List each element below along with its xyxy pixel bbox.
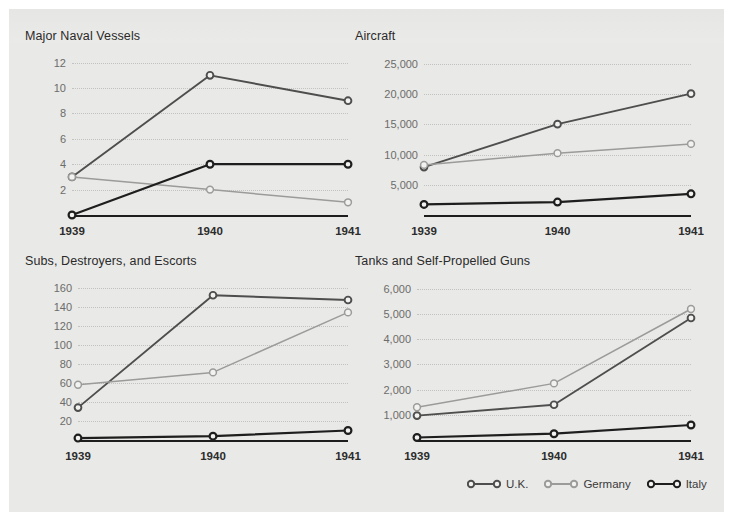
data-point-marker-italy[interactable]	[554, 199, 561, 206]
series-layer	[78, 280, 348, 444]
series-line-uk	[78, 295, 348, 407]
data-point-marker-germany[interactable]	[345, 309, 352, 316]
legend-label: Italy	[686, 478, 707, 490]
data-point-marker-italy[interactable]	[688, 190, 695, 197]
data-point-marker-italy[interactable]	[69, 212, 76, 219]
legend-label: U.K.	[506, 478, 528, 490]
data-point-marker-uk[interactable]	[688, 90, 695, 97]
data-point-marker-uk[interactable]	[414, 412, 421, 419]
x-axis-tick-label: 1940	[200, 450, 226, 462]
y-axis-tick-label: 20	[60, 415, 72, 427]
y-axis-tick-label: 3,000	[383, 358, 411, 370]
x-axis-tick-label: 1940	[545, 225, 571, 237]
plot-area: 5,00010,00015,00020,00025,00019391940194…	[424, 55, 691, 215]
legend: U.K.GermanyItaly	[467, 478, 707, 490]
y-axis-tick-label: 25,000	[384, 58, 418, 70]
series-layer	[424, 55, 691, 219]
data-point-marker-italy[interactable]	[688, 422, 695, 429]
x-axis-tick-label: 1939	[59, 225, 85, 237]
plot-area: 1,0002,0003,0004,0005,0006,0001939194019…	[417, 280, 691, 440]
x-axis-tick-label: 1940	[541, 450, 567, 462]
y-axis-tick-label: 12	[54, 57, 66, 69]
data-point-marker-uk[interactable]	[345, 297, 352, 304]
data-point-marker-germany[interactable]	[69, 174, 76, 181]
data-point-marker-italy[interactable]	[345, 427, 352, 434]
legend-swatch-icon	[647, 478, 681, 490]
y-axis-tick-label: 10,000	[384, 149, 418, 161]
y-axis-tick-label: 8	[60, 107, 66, 119]
y-axis-tick-label: 4,000	[383, 333, 411, 345]
x-axis-tick-label: 1939	[65, 450, 91, 462]
y-axis-tick-label: 5,000	[390, 179, 418, 191]
legend-item[interactable]: Germany	[544, 478, 630, 490]
series-layer	[72, 55, 348, 219]
x-axis-tick-label: 1939	[411, 225, 437, 237]
series-layer	[417, 280, 691, 444]
y-axis-tick-label: 1,000	[383, 409, 411, 421]
data-point-marker-germany[interactable]	[688, 306, 695, 313]
data-point-marker-uk[interactable]	[207, 72, 214, 79]
y-axis-tick-label: 5,000	[383, 308, 411, 320]
data-point-marker-italy[interactable]	[345, 161, 352, 168]
data-point-marker-germany[interactable]	[554, 150, 561, 157]
x-axis-tick-label: 1939	[404, 450, 430, 462]
y-axis-tick-label: 2	[60, 184, 66, 196]
data-point-marker-italy[interactable]	[207, 161, 214, 168]
series-line-germany	[417, 309, 691, 407]
data-point-marker-germany[interactable]	[207, 186, 214, 193]
y-axis-tick-label: 160	[54, 282, 72, 294]
x-axis-tick-label: 1941	[678, 225, 704, 237]
data-point-marker-uk[interactable]	[551, 401, 558, 408]
y-axis-tick-label: 4	[60, 158, 66, 170]
y-axis-tick-label: 6	[60, 133, 66, 145]
chart-canvas: Major Naval Vessels 24681012193919401941…	[9, 9, 724, 512]
y-axis-tick-label: 15,000	[384, 118, 418, 130]
plot-area: 20406080100120140160193919401941	[78, 280, 348, 440]
data-point-marker-uk[interactable]	[554, 121, 561, 128]
data-point-marker-uk[interactable]	[345, 97, 352, 104]
panel-aircraft: Aircraft 5,00010,00015,00020,00025,00019…	[355, 29, 710, 254]
data-point-marker-germany[interactable]	[75, 381, 82, 388]
chart-title: Tanks and Self-Propelled Guns	[355, 254, 530, 268]
plot-area: 24681012193919401941	[72, 55, 348, 215]
legend-swatch-icon	[467, 478, 501, 490]
x-axis-tick-label: 1941	[678, 450, 704, 462]
y-axis-tick-label: 140	[54, 301, 72, 313]
panel-tanks-and-self-propelled-guns: Tanks and Self-Propelled Guns 1,0002,000…	[355, 254, 710, 486]
y-axis-tick-label: 40	[60, 396, 72, 408]
data-point-marker-uk[interactable]	[210, 292, 217, 299]
data-point-marker-italy[interactable]	[75, 435, 82, 442]
chart-title: Subs, Destroyers, and Escorts	[25, 254, 197, 268]
data-point-marker-germany[interactable]	[688, 140, 695, 147]
y-axis-tick-label: 10	[54, 82, 66, 94]
y-axis-tick-label: 120	[54, 320, 72, 332]
data-point-marker-italy[interactable]	[421, 201, 428, 208]
y-axis-tick-label: 100	[54, 339, 72, 351]
legend-swatch-icon	[544, 478, 578, 490]
y-axis-tick-label: 2,000	[383, 384, 411, 396]
data-point-marker-uk[interactable]	[688, 315, 695, 322]
legend-item[interactable]: Italy	[647, 478, 707, 490]
y-axis-tick-label: 20,000	[384, 88, 418, 100]
data-point-marker-uk[interactable]	[75, 404, 82, 411]
y-axis-tick-label: 6,000	[383, 283, 411, 295]
legend-item[interactable]: U.K.	[467, 478, 528, 490]
chart-page: Major Naval Vessels 24681012193919401941…	[0, 0, 733, 521]
data-point-marker-italy[interactable]	[551, 430, 558, 437]
data-point-marker-germany[interactable]	[421, 162, 428, 169]
data-point-marker-germany[interactable]	[551, 380, 558, 387]
data-point-marker-italy[interactable]	[414, 434, 421, 441]
y-axis-tick-label: 60	[60, 377, 72, 389]
x-axis-tick-label: 1940	[197, 225, 223, 237]
panel-subs-destroyers-escorts: Subs, Destroyers, and Escorts 2040608010…	[25, 254, 365, 486]
data-point-marker-germany[interactable]	[345, 199, 352, 206]
data-point-marker-germany[interactable]	[210, 369, 217, 376]
legend-label: Germany	[583, 478, 630, 490]
chart-title: Aircraft	[355, 29, 395, 43]
data-point-marker-italy[interactable]	[210, 433, 217, 440]
panel-major-naval-vessels: Major Naval Vessels 24681012193919401941	[25, 29, 365, 254]
data-point-marker-germany[interactable]	[414, 404, 421, 411]
y-axis-tick-label: 80	[60, 358, 72, 370]
chart-title: Major Naval Vessels	[25, 29, 140, 43]
